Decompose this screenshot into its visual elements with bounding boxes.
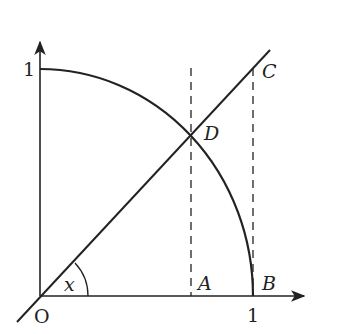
diagram-svg: 1 O 1 x A B C D bbox=[0, 0, 348, 334]
point-label-c: C bbox=[262, 60, 277, 82]
origin-label: O bbox=[34, 305, 50, 327]
point-label-b: B bbox=[261, 272, 276, 294]
y-tick-label: 1 bbox=[23, 58, 35, 80]
point-label-d: D bbox=[203, 122, 219, 144]
diagram-canvas: 1 O 1 x A B C D bbox=[0, 0, 348, 334]
angle-arc bbox=[75, 263, 88, 296]
x-tick-label: 1 bbox=[247, 304, 259, 326]
ray-line-oc bbox=[17, 50, 270, 322]
angle-label: x bbox=[64, 273, 75, 295]
point-label-a: A bbox=[196, 272, 212, 294]
